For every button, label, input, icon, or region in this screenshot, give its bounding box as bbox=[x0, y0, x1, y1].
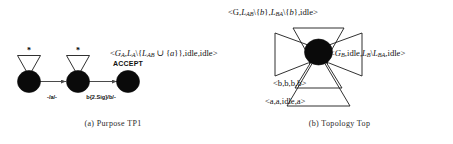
self-loop-label-s1: * bbox=[76, 46, 80, 55]
state-node-topology-center[interactable] bbox=[305, 39, 333, 65]
self-loop-label-left: <GA,LA\{LAB ∪ {a}},idle,idle> bbox=[110, 48, 218, 58]
panel-purpose-tp1: * * ACCEPT -/a/- b{2.Sig}/b/- (a) Purpos… bbox=[0, 0, 226, 144]
state-node-s2-accept[interactable] bbox=[117, 71, 140, 93]
self-loop-label-s0: * bbox=[27, 46, 31, 55]
panel-topology-top: <G,LAB\{b},LBA\{b},idle> <GB,idle,LB\LBA… bbox=[226, 0, 453, 144]
transition-label-s1-s2: b{2.Sig}/b/- bbox=[86, 94, 116, 100]
self-loop-label-right: <GB,idle,LB\LBA,idle> bbox=[330, 48, 405, 58]
caption-panel-a: (a) Purpose TP1 bbox=[0, 119, 226, 128]
self-loop-label-top: <G,LAB\{b},LBA\{b},idle> bbox=[228, 7, 318, 17]
state-node-s1[interactable] bbox=[67, 71, 90, 93]
accept-label: ACCEPT bbox=[113, 60, 144, 67]
state-node-s0[interactable] bbox=[18, 71, 41, 93]
caption-panel-b: (b) Topology Top bbox=[226, 119, 453, 128]
self-loop-label-bottom-outer: <a,a,idle,a> bbox=[265, 96, 305, 106]
self-loop-label-bottom-inner: <b,b,b,b> bbox=[273, 78, 306, 88]
transition-label-s0-s1: -/a/- bbox=[47, 94, 57, 100]
figure-root: * * ACCEPT -/a/- b{2.Sig}/b/- (a) Purpos… bbox=[0, 0, 453, 144]
